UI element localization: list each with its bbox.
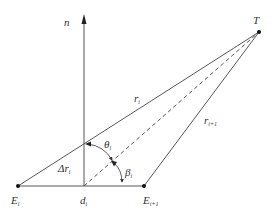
dashed-ray-d-i [84,32,259,186]
label-r-i-sub: i [138,99,140,105]
label-e-i1-main: E [143,194,150,206]
point-e-i-plus-1 [142,184,146,188]
label-delta-r-i: Δri [58,163,70,175]
label-beta-sub: i [130,173,132,179]
label-d-i: di [80,195,87,207]
label-e-i1-sub: i+1 [150,201,159,207]
ray-r-i-plus-1 [144,32,259,186]
normal-arrow-icon [82,14,87,24]
label-r-i: ri [134,93,140,105]
label-r-i1-sub: i+1 [208,121,217,127]
label-t: T [253,15,259,26]
label-e-i: Ei [11,195,19,207]
label-e-i-sub: i [18,201,20,207]
label-r-i-plus-1: ri+1 [204,115,217,127]
label-beta-i: βi [125,167,132,179]
label-e-i-plus-1: Ei+1 [143,195,158,207]
label-delta-r-sub: i [69,169,71,175]
geometry-diagram [0,0,278,218]
label-e-i-main: E [11,194,18,206]
point-e-i [16,184,20,188]
label-delta-r-main: Δr [58,162,69,174]
label-n: n [64,17,70,28]
point-target [257,30,261,34]
label-d-i-sub: i [86,201,88,207]
beta-arc [114,163,122,182]
ray-r-i [18,32,259,186]
label-theta-i: θi [104,139,111,151]
label-theta-sub: i [109,145,111,151]
